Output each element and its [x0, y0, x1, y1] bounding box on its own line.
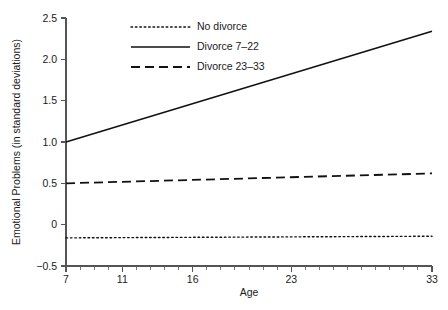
y-tick-label: 0.5: [42, 177, 57, 189]
x-tick-label: 16: [187, 273, 199, 285]
series-line-dashed: [66, 173, 432, 183]
y-tick-label: 2.5: [42, 12, 57, 24]
x-axis-ticks: 711162333: [63, 266, 438, 285]
legend-label: Divorce 23–33: [197, 60, 265, 72]
y-tick-label: 1.5: [42, 94, 57, 106]
x-tick-label: 23: [285, 273, 297, 285]
line-chart: 2.52.01.51.00.50−0.5 711162333 Age Emoti…: [0, 0, 448, 310]
x-tick-label: 11: [117, 273, 128, 285]
y-tick-label: 2.0: [42, 53, 57, 65]
y-tick-label: −0.5: [36, 260, 57, 272]
chart-legend: No divorceDivorce 7–22Divorce 23–33: [131, 20, 265, 72]
x-tick-label: 7: [63, 273, 69, 285]
series-line-dotted: [66, 236, 432, 238]
legend-label: No divorce: [197, 20, 247, 32]
x-tick-label: 33: [426, 273, 438, 285]
y-axis-ticks: 2.52.01.51.00.50−0.5: [36, 12, 66, 272]
chart-figure: 2.52.01.51.00.50−0.5 711162333 Age Emoti…: [0, 0, 448, 310]
y-tick-label: 0: [51, 218, 57, 230]
x-axis-title: Age: [240, 286, 259, 298]
legend-label: Divorce 7–22: [197, 40, 259, 52]
y-tick-label: 1.0: [42, 136, 57, 148]
y-axis-title: Emotional Problems (in standard deviatio…: [10, 39, 22, 245]
